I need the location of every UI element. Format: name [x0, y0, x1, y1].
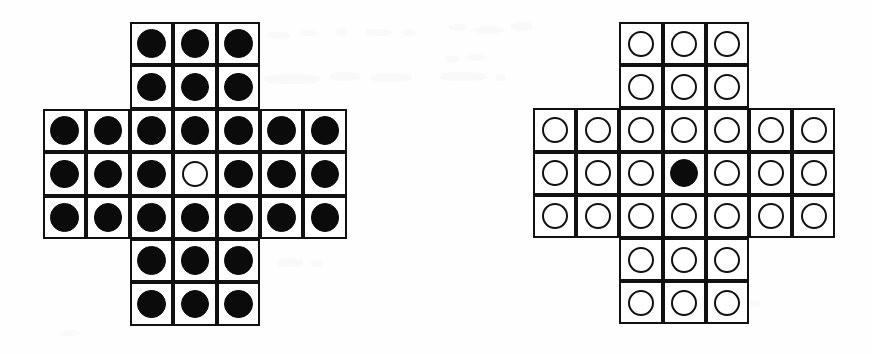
board-cell[interactable]: [619, 22, 662, 65]
peg-empty-hole-icon: [628, 290, 654, 316]
peg-filled-icon: [137, 73, 166, 102]
board-cell[interactable]: [303, 109, 346, 152]
peg-empty-hole-icon: [714, 160, 740, 186]
board-cell[interactable]: [43, 109, 86, 152]
peg-empty-hole-icon: [801, 160, 827, 186]
board-cell[interactable]: [173, 65, 216, 108]
board-cell[interactable]: [619, 195, 662, 238]
peg-empty-hole-icon: [628, 31, 654, 57]
peg-filled-icon: [224, 160, 253, 189]
board-cell[interactable]: [173, 22, 216, 65]
board-cell[interactable]: [217, 65, 260, 108]
peg-empty-hole-icon: [671, 74, 697, 100]
board-cell[interactable]: [173, 196, 216, 239]
board-cell[interactable]: [303, 196, 346, 239]
peg-empty-hole-icon: [758, 117, 784, 143]
board-cell[interactable]: [749, 108, 792, 151]
board-cell[interactable]: [619, 65, 662, 108]
peg-filled-icon: [137, 160, 166, 189]
board-cell[interactable]: [619, 281, 662, 324]
peg-filled-icon: [137, 246, 166, 275]
board-cell[interactable]: [706, 108, 749, 151]
board-cell[interactable]: [260, 196, 303, 239]
board-cell[interactable]: [533, 108, 576, 151]
board-cell[interactable]: [130, 196, 173, 239]
board-cell[interactable]: [130, 239, 173, 282]
board-cell[interactable]: [749, 152, 792, 195]
peg-empty-hole-icon: [758, 203, 784, 229]
board-cell[interactable]: [86, 109, 129, 152]
peg-empty-hole-icon: [671, 31, 697, 57]
scan-ghost-mark: [496, 74, 506, 81]
board-cell[interactable]: [663, 22, 706, 65]
board-cell[interactable]: [576, 108, 619, 151]
board-cell[interactable]: [260, 109, 303, 152]
board-cell[interactable]: [576, 195, 619, 238]
peg-empty-hole-icon: [585, 160, 611, 186]
board-cell[interactable]: [173, 109, 216, 152]
scan-ghost-mark: [60, 330, 80, 336]
board-cell[interactable]: [663, 108, 706, 151]
board-cell[interactable]: [619, 238, 662, 281]
scan-ghost-mark: [474, 26, 504, 34]
board-cell[interactable]: [130, 282, 173, 325]
peg-filled-icon: [267, 116, 296, 145]
peg-filled-icon: [50, 160, 79, 189]
board-cell[interactable]: [217, 22, 260, 65]
board-cell[interactable]: [663, 281, 706, 324]
board-cell[interactable]: [749, 195, 792, 238]
peg-solitaire-figure: [0, 0, 872, 354]
board-cell[interactable]: [792, 152, 835, 195]
board-cell[interactable]: [173, 282, 216, 325]
scan-ghost-mark: [449, 24, 467, 31]
board-cell[interactable]: [663, 238, 706, 281]
board-cell[interactable]: [43, 152, 86, 195]
scan-ghost-mark: [366, 29, 392, 36]
board-cell[interactable]: [130, 152, 173, 195]
board-cell[interactable]: [706, 195, 749, 238]
board-grid: [533, 22, 835, 324]
board-cell[interactable]: [303, 152, 346, 195]
peg-empty-hole-icon: [542, 160, 568, 186]
board-cell[interactable]: [130, 65, 173, 108]
board-cell[interactable]: [663, 152, 706, 195]
board-cell[interactable]: [792, 195, 835, 238]
board-cell[interactable]: [706, 281, 749, 324]
board-cell[interactable]: [130, 22, 173, 65]
board-cell[interactable]: [706, 238, 749, 281]
board-cell[interactable]: [217, 239, 260, 282]
board-cell[interactable]: [619, 152, 662, 195]
board-left: [43, 22, 347, 326]
peg-filled-icon: [181, 246, 210, 275]
board-cell[interactable]: [173, 239, 216, 282]
board-cell[interactable]: [663, 65, 706, 108]
board-cell[interactable]: [706, 22, 749, 65]
board-cell[interactable]: [706, 152, 749, 195]
board-cell[interactable]: [792, 108, 835, 151]
peg-empty-hole-icon: [628, 160, 654, 186]
peg-empty-hole-icon: [585, 117, 611, 143]
board-cell[interactable]: [533, 195, 576, 238]
board-grid: [43, 22, 347, 326]
board-cell[interactable]: [217, 152, 260, 195]
board-cell[interactable]: [130, 109, 173, 152]
board-cell[interactable]: [86, 152, 129, 195]
board-cell[interactable]: [173, 152, 216, 195]
scan-ghost-mark: [370, 73, 412, 82]
board-cell[interactable]: [217, 196, 260, 239]
board-cell[interactable]: [43, 196, 86, 239]
board-cell[interactable]: [576, 152, 619, 195]
peg-empty-hole-icon: [714, 31, 740, 57]
board-cell[interactable]: [663, 195, 706, 238]
board-cell[interactable]: [260, 152, 303, 195]
peg-filled-icon: [181, 73, 210, 102]
board-cell[interactable]: [86, 196, 129, 239]
board-cell[interactable]: [533, 152, 576, 195]
board-cell[interactable]: [706, 65, 749, 108]
board-cell[interactable]: [619, 108, 662, 151]
board-cell[interactable]: [217, 282, 260, 325]
board-cell[interactable]: [217, 109, 260, 152]
peg-filled-icon: [181, 203, 210, 232]
peg-empty-hole-icon: [628, 74, 654, 100]
scan-ghost-mark: [445, 56, 459, 63]
